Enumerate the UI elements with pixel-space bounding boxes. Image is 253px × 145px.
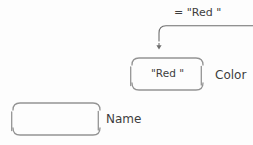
- color-box-value: "Red ": [132, 67, 203, 80]
- name-box-top-edge: [13, 103, 100, 110]
- color-box-label: Color: [215, 68, 246, 82]
- color-box-top-edge: [132, 58, 203, 65]
- assignment-expression-label: = "Red ": [174, 6, 221, 19]
- arrowhead-down-icon: [156, 45, 161, 49]
- assignment-arrow: [156, 26, 253, 50]
- name-box-outline: [12, 103, 100, 135]
- assignment-arrow-line: [159, 26, 253, 41]
- name-box-bottom-edge: [13, 128, 100, 135]
- color-box-bottom-edge: [132, 83, 203, 90]
- variable-diagram: = "Red " "Red " Color Name: [0, 0, 253, 145]
- name-box-label: Name: [106, 112, 141, 126]
